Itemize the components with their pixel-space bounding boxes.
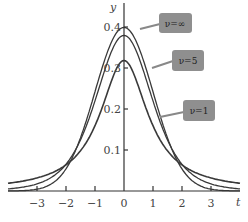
x-tick-label: 1 <box>150 197 157 210</box>
callout-nu-inf: ν=∞ <box>140 13 192 33</box>
callout-nu-1: ν=1 <box>160 100 215 121</box>
x-tick-label: −2 <box>58 197 74 210</box>
y-tick-label: 0.4 <box>104 21 122 34</box>
callout-nu-5: ν=5 <box>152 50 204 71</box>
y-tick-label: 0.1 <box>104 144 122 157</box>
callout-label: ν=1 <box>190 106 209 116</box>
callout-label: ν=∞ <box>165 19 186 29</box>
x-tick-label: 2 <box>179 197 186 210</box>
x-tick-label: 0 <box>121 197 128 210</box>
x-tick-label: −3 <box>29 197 45 210</box>
x-tick-label: −1 <box>87 197 103 210</box>
x-axis-title: t <box>236 196 241 209</box>
t-distribution-chart: −3−2−10123 0.10.20.30.4 y t ν=∞ ν=5 ν=1 <box>0 0 248 222</box>
x-tick-label: 3 <box>208 197 215 210</box>
y-tick-label: 0.3 <box>104 62 122 75</box>
x-ticks: −3−2−10123 <box>29 186 215 210</box>
callout-label: ν=5 <box>179 56 198 66</box>
y-tick-label: 0.2 <box>104 103 122 116</box>
y-axis-title: y <box>109 1 117 14</box>
